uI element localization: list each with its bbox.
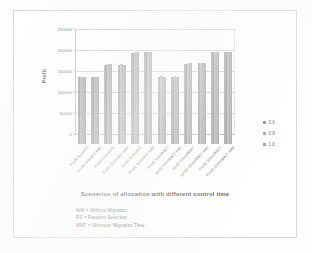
legend-notes: WM = Without Migration RS = Random Selec… — [76, 207, 144, 229]
y-tick-label: 100000 — [57, 90, 72, 95]
bar — [110, 64, 113, 144]
y-tick-label: 0 — [70, 132, 72, 137]
note-mmt: MMT = Minimum Migration Time — [76, 222, 144, 229]
bar — [216, 52, 219, 144]
bar — [230, 52, 233, 144]
x-axis-tick-labels: Profit 5mmRSProfit 5mmRS-WMProfit 15mmRS… — [75, 145, 235, 191]
chart-legend: 0.60.81.0 — [263, 117, 275, 150]
legend-item[interactable]: 0.6 — [263, 117, 275, 128]
y-tick-label: 50000 — [60, 111, 72, 116]
legend-label: 0.6 — [269, 120, 275, 125]
bar-group — [75, 39, 88, 144]
bar-group — [142, 39, 155, 144]
legend-label: 1.0 — [269, 142, 275, 147]
legend-swatch-icon — [263, 121, 266, 124]
note-wm: WM = Without Migration — [76, 207, 144, 214]
bar — [96, 77, 99, 144]
bar-group — [168, 39, 181, 144]
legend-item[interactable]: 0.8 — [263, 128, 275, 139]
y-tick-label: 150000 — [57, 69, 72, 74]
legend-label: 0.8 — [269, 131, 275, 136]
chart-frame: Profit 050000100000150000200000250000 Pr… — [13, 10, 297, 238]
legend-item[interactable]: 1.0 — [263, 139, 275, 150]
bar — [190, 63, 193, 144]
gridline — [75, 29, 235, 30]
bar-group — [155, 39, 168, 144]
bar-group — [115, 39, 128, 144]
note-rs: RS = Random Selection — [76, 214, 144, 221]
bar-group — [182, 39, 195, 144]
bar — [203, 63, 206, 144]
bar-group — [128, 39, 141, 144]
bar-group — [222, 39, 235, 144]
bar-group — [102, 39, 115, 144]
legend-swatch-icon — [263, 143, 266, 146]
bar-series-container — [75, 39, 235, 144]
bar — [150, 52, 153, 144]
x-axis-title: Scenarios of allocation with different c… — [14, 191, 296, 197]
chart-page: Profit 050000100000150000200000250000 Pr… — [0, 0, 312, 253]
y-axis-title: Profit — [41, 69, 47, 83]
bar — [136, 52, 139, 144]
bar-group — [88, 39, 101, 144]
y-tick-label: 250000 — [57, 27, 72, 32]
bar — [163, 77, 166, 144]
bar-group — [208, 39, 221, 144]
bar — [176, 77, 179, 144]
y-tick-mark — [73, 29, 75, 30]
plot-wrapper: 050000100000150000200000250000 — [75, 29, 235, 144]
bar — [83, 77, 86, 144]
y-tick-label: 200000 — [57, 48, 72, 53]
legend-swatch-icon — [263, 132, 266, 135]
bar — [123, 65, 126, 144]
bar-group — [195, 39, 208, 144]
